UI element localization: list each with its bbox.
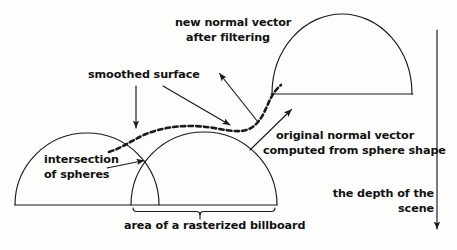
label-rasterized-billboard: area of a rasterized billboard xyxy=(124,219,276,234)
label-intersection-of-spheres: intersection of spheres xyxy=(44,153,124,182)
label-smoothed-surface: smoothed surface xyxy=(88,68,188,83)
label-original-normal-vector: original normal vector computed from sph… xyxy=(263,129,427,158)
smoothed-surface-arrow-right xyxy=(163,86,230,125)
label-new-normal-vector: new normal vector after filtering xyxy=(175,16,281,45)
new-normal-vector-arrow xyxy=(220,74,259,123)
right-sphere-dome xyxy=(131,132,277,205)
label-depth-of-scene: the depth of the scene xyxy=(308,187,434,216)
diagram-canvas: new normal vector after filtering smooth… xyxy=(0,0,457,250)
billboard-brace xyxy=(133,208,275,215)
far-sphere-dome xyxy=(272,14,412,94)
